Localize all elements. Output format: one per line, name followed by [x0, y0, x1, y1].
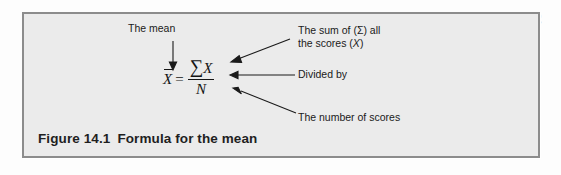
figure-caption: Figure 14.1Formula for the mean	[38, 131, 257, 146]
formula-numerator: ∑X	[188, 57, 215, 78]
annotation-the-sum: The sum of (Σ) allthe scores (X)	[298, 24, 380, 50]
mean-formula: X = ∑X N	[163, 57, 214, 99]
figure-screenshot: STOP & THINK The mean The sum of (Σ) all…	[0, 0, 561, 175]
summation-icon: ∑	[190, 56, 204, 77]
formula-equals-sign: =	[175, 68, 183, 88]
figure-caption-number: Figure 14.1	[38, 131, 110, 146]
annotation-the-sum-line2: the scores (X)	[298, 37, 363, 49]
annotation-divided-by: Divided by	[298, 68, 347, 81]
annotation-the-sum-line1: The sum of (Σ) all	[298, 24, 380, 36]
annotation-number-of-scores: The number of scores	[298, 111, 400, 124]
formula-denominator: N	[196, 80, 206, 99]
variable-x-glyph: X	[353, 37, 360, 49]
figure-caption-title: Formula for the mean	[117, 131, 257, 146]
annotation-the-mean: The mean	[128, 22, 175, 35]
overbar	[164, 69, 173, 70]
formula-mean-symbol: X	[163, 69, 172, 87]
formula-fraction: ∑X N	[188, 57, 215, 99]
